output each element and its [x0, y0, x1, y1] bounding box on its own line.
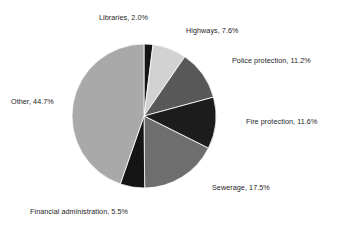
- pie-chart: Libraries, 2.0% Highways, 7.6% Police pr…: [0, 0, 347, 230]
- pie-label-libraries: Libraries, 2.0%: [99, 14, 148, 22]
- pie-label-highways: Highways, 7.6%: [186, 27, 239, 35]
- pie-label-police-protection: Police protection, 11.2%: [232, 57, 311, 65]
- pie-label-fire-protection: Fire protection, 11.6%: [246, 118, 317, 126]
- pie-label-sewerage: Sewerage, 17.5%: [212, 184, 270, 192]
- pie-label-financial-administration: Financial administration, 5.5%: [30, 208, 128, 216]
- pie-chart-canvas: [0, 0, 347, 230]
- pie-label-other: Other, 44.7%: [11, 98, 54, 106]
- pie-slice-group: [72, 44, 216, 188]
